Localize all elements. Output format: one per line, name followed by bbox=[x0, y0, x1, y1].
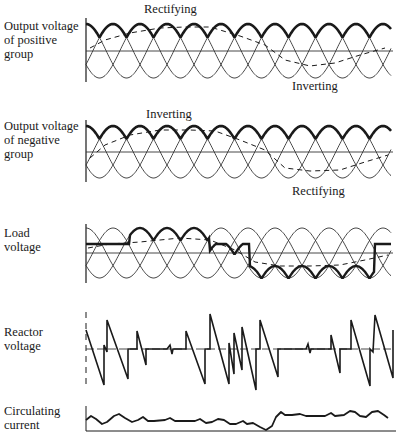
circulating-current-trace bbox=[86, 411, 388, 430]
group-output-trace bbox=[86, 24, 391, 37]
group-output-trace bbox=[86, 126, 391, 138]
waveform-diagram bbox=[0, 0, 407, 448]
panel-negative-group bbox=[86, 120, 393, 182]
panel-load-voltage bbox=[86, 224, 393, 283]
panel-circulating-current bbox=[86, 406, 396, 431]
panel-reactor-voltage bbox=[86, 312, 394, 390]
panel-positive-group bbox=[86, 18, 393, 82]
reactor-voltage-trace bbox=[86, 314, 393, 390]
